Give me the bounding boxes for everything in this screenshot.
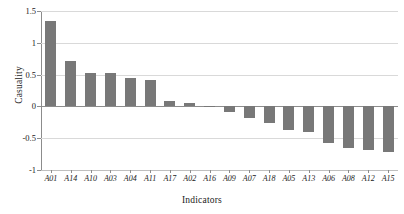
x-tick-mark [71, 170, 72, 173]
bar-A06 [323, 106, 334, 143]
bar-A04 [125, 78, 136, 106]
bar-A12 [363, 106, 374, 149]
bar-A13 [303, 106, 314, 132]
x-tick-mark [130, 170, 131, 173]
bar-A15 [383, 106, 394, 151]
x-tick-mark [110, 170, 111, 173]
x-tick-mark [368, 170, 369, 173]
x-tick-mark [170, 170, 171, 173]
x-tick-mark [210, 170, 211, 173]
bar-A08 [343, 106, 354, 147]
bar-series [41, 11, 398, 170]
x-tick-mark [51, 170, 52, 173]
x-tick-mark [388, 170, 389, 173]
x-tick-mark [190, 170, 191, 173]
x-tick-mark [269, 170, 270, 173]
y-axis-title: Casuality [14, 35, 24, 135]
y-tick-label: -0.5 [2, 133, 36, 143]
bar-chart: Casuality 1.510.50-0.5-1 A01A14A10A03A04… [0, 0, 404, 214]
x-tick-mark [309, 170, 310, 173]
bar-A09 [224, 106, 235, 112]
x-tick-mark [229, 170, 230, 173]
bar-A05 [283, 106, 294, 130]
y-tick-label: 1 [2, 38, 36, 48]
bar-A01 [45, 21, 56, 106]
y-tick-label: 0 [2, 101, 36, 111]
plot-area [41, 11, 398, 170]
bar-A11 [145, 80, 156, 106]
x-tick-mark [289, 170, 290, 173]
bar-A03 [105, 73, 116, 107]
bar-A18 [264, 106, 275, 123]
bar-A16 [204, 106, 215, 107]
x-tick-mark [329, 170, 330, 173]
x-tick-mark [249, 170, 250, 173]
x-tick-mark [150, 170, 151, 173]
bar-A07 [244, 106, 255, 118]
bar-A10 [85, 73, 96, 107]
y-tick-label: 0.5 [2, 70, 36, 80]
y-tick-label: 1.5 [2, 6, 36, 16]
x-axis-title: Indicators [0, 195, 404, 205]
x-tick-label-A15: A15 [368, 174, 404, 183]
bar-A17 [164, 101, 175, 106]
x-tick-mark [91, 170, 92, 173]
bar-A14 [65, 61, 76, 107]
x-tick-mark [348, 170, 349, 173]
bar-A02 [184, 103, 195, 107]
gridline-neg1 [41, 170, 398, 171]
